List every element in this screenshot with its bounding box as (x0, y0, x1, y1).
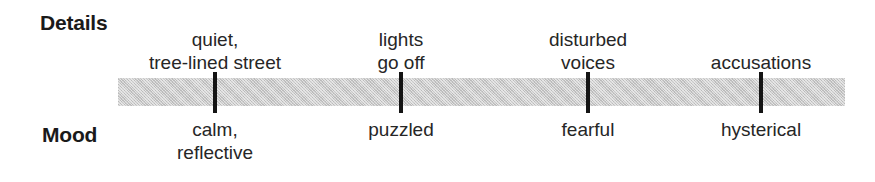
detail-label: disturbed voices (549, 28, 627, 74)
timeline-tick-mark (399, 72, 403, 113)
detail-label: lights go off (377, 28, 424, 74)
detail-label: quiet, tree-lined street (149, 28, 281, 74)
timeline-bar (118, 78, 845, 106)
mood-label: puzzled (368, 118, 434, 141)
details-row-heading: Details (40, 11, 107, 35)
detail-label: accusations (711, 51, 811, 74)
mood-label: hysterical (721, 118, 801, 141)
timeline-tick-mark (759, 72, 763, 113)
mood-label: fearful (562, 118, 615, 141)
mood-label: calm, reflective (177, 118, 253, 164)
mood-row-heading: Mood (42, 123, 97, 147)
timeline-tick-mark (213, 72, 217, 113)
timeline-tick-mark (586, 72, 590, 113)
timeline-diagram: Details Mood quiet, tree-lined streetcal… (0, 0, 875, 182)
